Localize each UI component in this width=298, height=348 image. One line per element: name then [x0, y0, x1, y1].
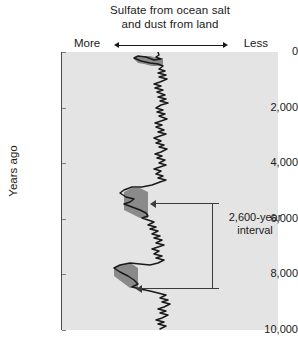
leader-arrow-upper	[155, 203, 212, 204]
interval-annotation-line-1: 2,600-year	[218, 211, 292, 224]
interval-annotation-line-2: interval	[218, 224, 292, 237]
direction-label-more: More	[74, 37, 100, 49]
y-tick-10000	[62, 330, 66, 331]
y-tick-6000	[62, 219, 66, 220]
chart-title-line-2: and dust from land	[62, 18, 278, 32]
y-tick-label-10000: 10,000	[242, 323, 298, 335]
y-tick-label-2000: 2,000	[242, 101, 298, 113]
y-tick-2000	[62, 108, 66, 109]
y-tick-8000	[62, 274, 66, 275]
y-tick-4000	[62, 163, 66, 164]
chart-figure: Sulfate from ocean salt and dust from la…	[0, 0, 298, 348]
y-tick-0	[62, 52, 66, 53]
leader-arrow-lower	[141, 288, 212, 289]
interval-bracket	[212, 203, 213, 288]
y-tick-label-4000: 4,000	[242, 156, 298, 168]
chart-title-line-1: Sulfate from ocean salt	[62, 4, 278, 18]
interval-annotation: 2,600-year interval	[218, 211, 292, 237]
y-tick-label-8000: 8,000	[242, 267, 298, 279]
y-tick-label-0: 0	[242, 45, 298, 57]
shaded-peak-bottom	[114, 264, 138, 288]
interval-bracket-cap-bottom	[206, 288, 219, 289]
y-axis-line	[61, 52, 62, 330]
chart-title: Sulfate from ocean salt and dust from la…	[62, 4, 278, 31]
y-axis-title: Years ago	[7, 136, 19, 206]
interval-bracket-cap-top	[206, 203, 219, 204]
double-arrow-icon	[119, 45, 223, 46]
